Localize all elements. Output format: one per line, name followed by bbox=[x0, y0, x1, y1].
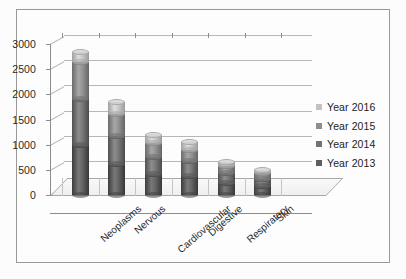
bar-segment[interactable] bbox=[108, 114, 125, 136]
cylinder-top-ellipse bbox=[108, 99, 125, 105]
legend-swatch-icon bbox=[316, 123, 322, 129]
gridline-depth-connector bbox=[50, 137, 64, 146]
bar-segment[interactable] bbox=[72, 99, 89, 144]
category-axis-tick bbox=[245, 33, 246, 38]
cylinder-bottom-ellipse bbox=[145, 171, 162, 177]
bar-segment[interactable] bbox=[108, 136, 125, 164]
gridline-depth-connector bbox=[50, 112, 64, 121]
category-axis-tick bbox=[281, 33, 282, 38]
floor-divider bbox=[135, 178, 136, 196]
bar-stack[interactable] bbox=[218, 33, 235, 195]
cylinder-bottom-ellipse bbox=[181, 147, 198, 153]
legend-label: Year 2015 bbox=[327, 120, 375, 132]
cylinder-bottom-ellipse bbox=[108, 161, 125, 167]
bar-stack[interactable] bbox=[145, 33, 162, 195]
category-axis-tick bbox=[99, 33, 100, 38]
category-axis-tick bbox=[172, 33, 173, 38]
bar-segment[interactable] bbox=[108, 102, 125, 114]
legend-item[interactable]: Year 2013 bbox=[316, 154, 375, 173]
legend-item[interactable]: Year 2016 bbox=[316, 98, 375, 117]
value-axis-tick-label: 2000 bbox=[12, 88, 36, 100]
legend-label: Year 2016 bbox=[327, 101, 375, 113]
cylinder-body bbox=[72, 145, 89, 195]
value-axis-tick bbox=[46, 44, 51, 45]
bar-segment[interactable] bbox=[72, 62, 89, 100]
legend-swatch-icon bbox=[316, 141, 322, 147]
value-axis-tick-label: 500 bbox=[18, 164, 36, 176]
bar-segment[interactable] bbox=[254, 170, 271, 174]
bar-stack[interactable] bbox=[72, 33, 89, 195]
bar-segment[interactable] bbox=[72, 52, 89, 62]
legend-swatch-icon bbox=[316, 160, 322, 166]
cylinder-body bbox=[72, 99, 89, 144]
floor-divider bbox=[99, 178, 100, 196]
category-axis-tick bbox=[135, 33, 136, 38]
bar-segment[interactable] bbox=[145, 135, 162, 144]
bar-segment[interactable] bbox=[181, 142, 198, 150]
cylinder-body bbox=[108, 164, 125, 195]
value-axis-tick bbox=[46, 94, 51, 95]
value-axis-tick-label: 1000 bbox=[12, 139, 36, 151]
cylinder-body bbox=[108, 136, 125, 164]
legend-label: Year 2013 bbox=[327, 157, 375, 169]
floor-divider bbox=[245, 178, 246, 196]
value-axis-tick bbox=[46, 69, 51, 70]
floor-divider bbox=[281, 178, 282, 196]
cylinder-top-ellipse bbox=[254, 167, 271, 173]
value-axis-tick bbox=[46, 195, 51, 196]
cylinder-body bbox=[72, 62, 89, 100]
cylinder-bottom-ellipse bbox=[72, 59, 89, 65]
bar-stack[interactable] bbox=[108, 33, 125, 195]
category-axis-tick bbox=[62, 33, 63, 38]
bar-stack[interactable] bbox=[181, 33, 198, 195]
cylinder-bottom-ellipse bbox=[145, 192, 162, 198]
cylinder-bottom-ellipse bbox=[181, 173, 198, 179]
cylinder-top-ellipse bbox=[72, 49, 89, 55]
value-axis-tick-label: 3000 bbox=[12, 38, 36, 50]
cylinder-bottom-ellipse bbox=[72, 192, 89, 198]
value-axis-tick-label: 1500 bbox=[12, 114, 36, 126]
bar-segment[interactable] bbox=[72, 145, 89, 195]
floor-divider bbox=[208, 178, 209, 196]
value-axis-tick bbox=[46, 170, 51, 171]
cylinder-top-ellipse bbox=[145, 132, 162, 138]
value-axis-tick bbox=[46, 120, 51, 121]
cylinder-bottom-ellipse bbox=[72, 142, 89, 148]
legend-swatch-icon bbox=[316, 104, 322, 110]
cylinder-bottom-ellipse bbox=[254, 176, 271, 182]
gridline-depth-connector bbox=[50, 61, 64, 70]
cylinder-bottom-ellipse bbox=[108, 133, 125, 139]
floor-divider bbox=[172, 178, 173, 196]
legend-item[interactable]: Year 2015 bbox=[316, 117, 375, 136]
bar-segment[interactable] bbox=[108, 164, 125, 195]
value-axis-tick bbox=[46, 145, 51, 146]
plot-area: 300025002000150010005000 bbox=[50, 33, 312, 195]
bar-segment[interactable] bbox=[145, 174, 162, 195]
cylinder-bottom-ellipse bbox=[218, 192, 235, 198]
bar-segment[interactable] bbox=[218, 162, 235, 166]
bar-stack[interactable] bbox=[254, 33, 271, 195]
value-axis-tick-label: 0 bbox=[30, 189, 36, 201]
gridline-depth-connector bbox=[50, 87, 64, 96]
chart-legend: Year 2016Year 2015Year 2014Year 2013 bbox=[316, 98, 375, 172]
legend-label: Year 2014 bbox=[327, 138, 375, 150]
chart-figure: 300025002000150010005000 NeoplasmsNervou… bbox=[0, 0, 406, 279]
legend-item[interactable]: Year 2014 bbox=[316, 135, 375, 154]
gridline-depth-connector bbox=[50, 162, 64, 171]
value-axis-tick-label: 2500 bbox=[12, 63, 36, 75]
category-axis-tick bbox=[208, 33, 209, 38]
floor-divider bbox=[62, 178, 63, 196]
